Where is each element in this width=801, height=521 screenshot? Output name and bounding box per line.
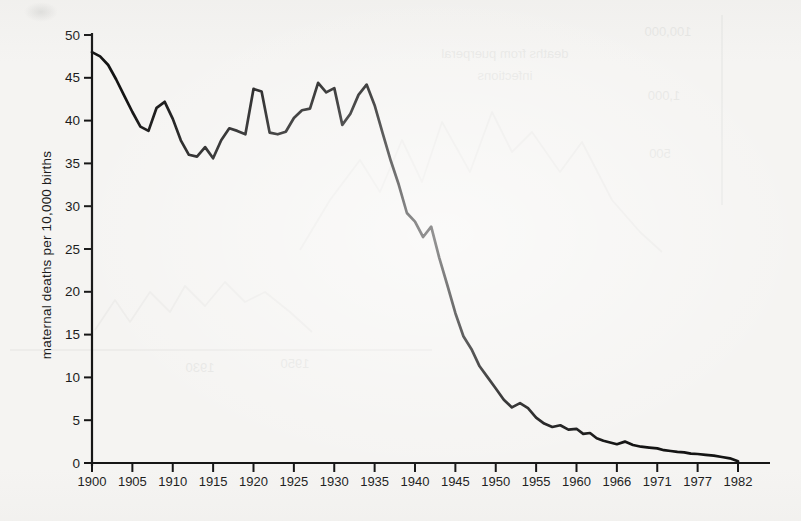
x-tick-label: 1955: [522, 474, 551, 489]
y-tick-label: 45: [65, 70, 80, 85]
x-tick-label: 1910: [158, 474, 187, 489]
y-tick-label: 15: [65, 327, 80, 342]
x-tick-label: 1930: [320, 474, 349, 489]
y-tick-label: 40: [65, 113, 80, 128]
mortality-curve: [92, 52, 738, 461]
y-tick-label: 5: [72, 413, 80, 428]
x-tick-label: 1950: [481, 474, 510, 489]
x-tick-label: 1920: [239, 474, 268, 489]
x-tick-label: 1966: [602, 474, 631, 489]
y-tick-label: 0: [72, 456, 80, 471]
maternal-mortality-line-chart: 0510152025303540455019001905191019151920…: [0, 0, 801, 521]
x-tick-label: 1982: [724, 474, 753, 489]
y-tick-label: 50: [65, 28, 80, 43]
y-tick-label: 30: [65, 199, 80, 214]
x-tick-label: 1945: [441, 474, 470, 489]
y-tick-label: 20: [65, 284, 80, 299]
y-tick-label: 10: [65, 370, 80, 385]
y-tick-label: 25: [65, 242, 80, 257]
x-tick-label: 1925: [279, 474, 308, 489]
scanned-book-page: 100,000deaths from puerperalinfections1,…: [0, 0, 801, 521]
x-tick-label: 1971: [643, 474, 672, 489]
x-tick-label: 1960: [562, 474, 591, 489]
x-tick-label: 1935: [360, 474, 389, 489]
x-tick-label: 1900: [78, 474, 107, 489]
y-tick-label: 35: [65, 156, 80, 171]
x-tick-label: 1915: [199, 474, 228, 489]
x-tick-label: 1905: [118, 474, 147, 489]
x-tick-label: 1940: [401, 474, 430, 489]
x-tick-label: 1977: [683, 474, 712, 489]
